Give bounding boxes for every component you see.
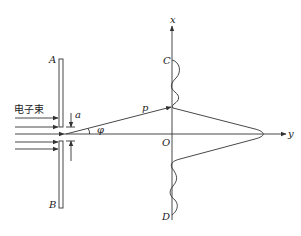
electron-beam-arrows [15, 118, 64, 149]
label-point-d: D [161, 211, 170, 222]
label-plate-top: A [48, 54, 56, 65]
slit-plate-top [59, 59, 63, 127]
slit-plate-bottom [59, 141, 63, 208]
angle-arc [88, 129, 90, 135]
label-y-axis: y [287, 128, 294, 139]
slit-width-dimension [66, 113, 75, 161]
label-point-c: C [163, 55, 171, 66]
label-origin: O [162, 137, 170, 148]
label-x-axis: x [170, 14, 176, 25]
label-slit-width: a [75, 109, 81, 120]
diffraction-diagram: A B 电子束 a y x C O D p φ [0, 0, 301, 236]
intensity-curve [170, 60, 263, 215]
momentum-ray [66, 107, 171, 134]
label-angle: φ [97, 124, 104, 135]
label-momentum: p [142, 102, 149, 113]
label-electron-beam: 电子束 [14, 103, 44, 115]
label-plate-bottom: B [48, 199, 56, 210]
